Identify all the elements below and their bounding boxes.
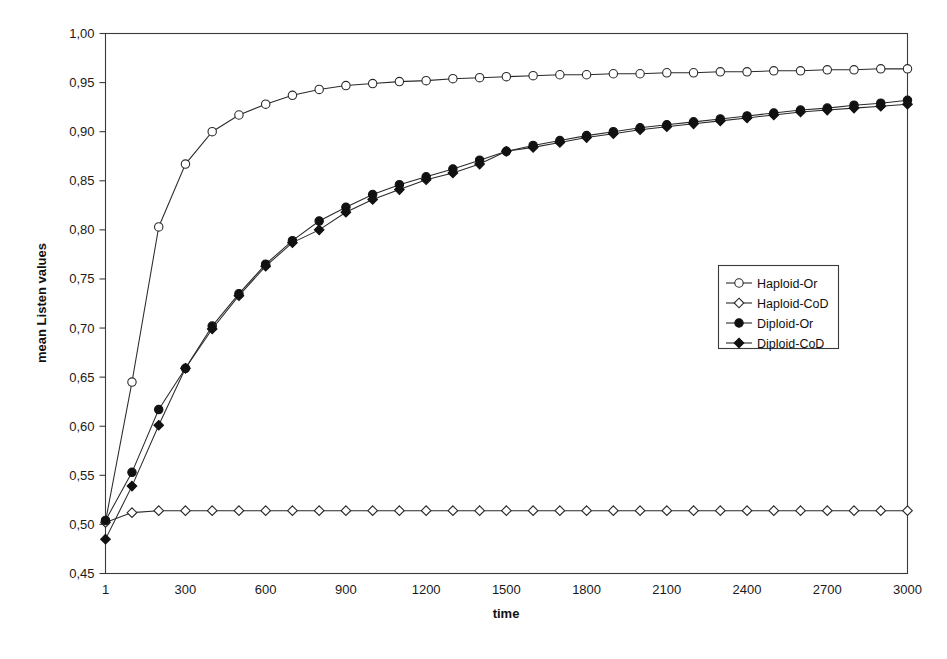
y-tick-label: 0,75 [69,271,94,286]
x-tick-label: 1800 [572,582,601,597]
x-tick-label: 2100 [652,582,681,597]
data-point-marker [314,506,324,516]
data-point-marker [261,100,269,108]
data-point-marker [342,81,350,89]
data-point-marker [850,66,858,74]
data-point-marker [101,534,111,544]
x-tick-label: 3000 [893,582,922,597]
data-point-marker [288,506,298,516]
y-tick-label: 0,70 [69,321,94,336]
data-point-marker [849,506,859,516]
y-tick-label: 1,00 [69,26,94,41]
x-axis-ticks: 13006009001200150018002100240027003000 [102,582,922,597]
data-point-marker [421,506,431,516]
y-tick-label: 0,85 [69,173,94,188]
data-point-marker [823,66,831,74]
line-chart: 0,450,500,550,600,650,700,750,800,850,90… [0,0,947,659]
data-point-marker [448,506,458,516]
data-point-marker [663,69,671,77]
data-point-marker [127,508,137,518]
y-axis-ticks: 0,450,500,550,600,650,700,750,800,850,90… [69,26,105,581]
data-point-marker [743,68,751,76]
data-point-marker [582,506,592,516]
data-point-marker [395,506,405,516]
data-point-marker [235,111,243,119]
data-point-marker [735,279,743,287]
data-point-marker [341,506,351,516]
data-point-marker [208,127,216,135]
y-tick-label: 0,45 [69,566,94,581]
y-tick-label: 0,50 [69,517,94,532]
data-point-marker [742,506,752,516]
data-point-marker [796,506,806,516]
y-axis-title: mean Listen values [34,243,49,363]
data-point-marker [315,85,323,93]
y-tick-label: 0,65 [69,370,94,385]
data-point-marker [609,506,619,516]
data-point-marker [529,72,537,80]
data-point-marker [101,516,109,524]
data-point-marker [502,147,512,157]
data-point-marker [154,420,164,430]
data-point-marker [368,506,378,516]
data-point-marker [689,506,699,516]
data-point-marker [770,67,778,75]
data-point-marker [502,506,512,516]
data-point-marker [128,468,136,476]
data-point-marker [635,506,645,516]
data-point-marker [207,506,217,516]
y-tick-label: 0,90 [69,124,94,139]
y-tick-label: 0,95 [69,75,94,90]
x-tick-label: 1500 [492,582,521,597]
x-tick-label: 2400 [733,582,762,597]
x-tick-label: 1 [102,582,109,597]
data-point-marker [903,506,913,516]
x-tick-label: 600 [255,582,277,597]
data-point-marker [502,73,510,81]
data-point-marker [662,506,672,516]
x-tick-label: 300 [175,582,197,597]
data-point-marker [769,506,779,516]
data-point-marker [154,506,164,516]
data-point-marker [475,73,483,81]
data-point-marker [314,225,324,235]
data-point-marker [716,68,724,76]
y-tick-label: 0,80 [69,222,94,237]
data-point-marker [368,79,376,87]
data-point-marker [555,506,565,516]
data-point-marker [181,506,191,516]
legend-label: Haploid-Or [757,277,817,291]
data-point-marker [735,319,743,327]
data-point-marker [903,65,911,73]
data-point-marker [127,481,137,491]
data-point-marker [181,364,191,374]
data-point-marker [315,217,323,225]
data-point-marker [261,506,271,516]
data-point-marker [796,67,804,75]
chart-figure: 0,450,500,550,600,650,700,750,800,850,90… [0,0,947,659]
data-point-marker [234,506,244,516]
data-point-marker [181,160,189,168]
legend-label: Haploid-CoD [757,297,829,311]
data-point-marker [689,69,697,77]
data-point-marker [876,506,886,516]
legend-label: Diploid-CoD [757,337,824,351]
data-point-marker [288,91,296,99]
data-point-marker [716,506,726,516]
x-tick-label: 2700 [813,582,842,597]
chart-legend: Haploid-OrHaploid-CoDDiploid-OrDiploid-C… [719,266,839,351]
data-point-marker [475,506,485,516]
data-point-marker [422,76,430,84]
data-point-marker [877,65,885,73]
x-tick-label: 900 [335,582,357,597]
data-point-marker [128,378,136,386]
y-tick-label: 0,55 [69,468,94,483]
data-point-marker [449,74,457,82]
data-point-marker [609,70,617,78]
data-point-marker [822,506,832,516]
data-point-marker [155,405,163,413]
data-point-marker [528,506,538,516]
x-tick-label: 1200 [412,582,441,597]
data-point-marker [582,71,590,79]
data-point-marker [155,223,163,231]
